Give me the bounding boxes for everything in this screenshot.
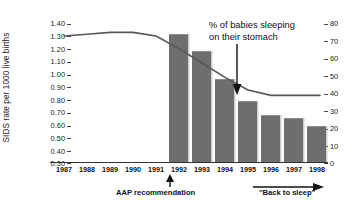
x-tick-1998: 1998 [304,165,330,174]
stomach-callout-arrow-icon [230,44,244,100]
x-axis-line [50,162,328,163]
y-tick-right-8: 0 [330,159,354,168]
sids-chart: SIDS rate per 1000 live births 1.40 1.30… [0,0,358,206]
y-tick-right-3: 50 [330,72,354,81]
line-series-svg [50,18,328,162]
y-tick-right-7: 10 [330,142,354,151]
y-tick-right-5: 30 [330,107,354,116]
y-tick-right-2: 60 [330,54,354,63]
back-to-sleep-label: "Back to sleep" [259,188,315,197]
line-path [64,32,320,95]
y-axis-left-title: SIDS rate per 1000 live births [0,0,16,175]
stomach-sleeping-line [50,18,328,162]
aap-recommendation-label: AAP recommendation [116,188,195,197]
plot-area [50,18,328,162]
y-tick-right-4: 40 [330,89,354,98]
y-axis-left-title-text: SIDS rate per 1000 live births [3,33,12,143]
stomach-callout-line1: % of babies sleeping [209,20,295,32]
y-tick-right-0: 80 [330,19,354,28]
y-tick-right-6: 20 [330,124,354,133]
stomach-callout-line2: on their stomach [209,32,278,44]
y-tick-right-1: 70 [330,37,354,46]
